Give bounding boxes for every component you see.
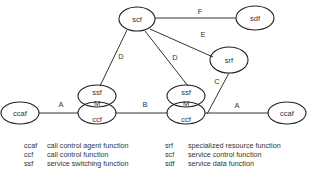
legend-abbr: scf [165, 150, 188, 159]
legend-abbr: ccf [24, 150, 47, 159]
legend-abbr: ssf [24, 159, 47, 168]
legend-desc: service data function [188, 159, 254, 168]
svg-text:sdf: sdf [250, 14, 261, 23]
node-srf: srf [210, 47, 248, 73]
legend-row: ccaf call control agent function [24, 141, 129, 150]
svg-text:ssf: ssf [181, 88, 192, 97]
edge-label-b: B [142, 100, 147, 109]
legend-right: srf specialized resource function scf se… [165, 141, 281, 168]
legend-desc: specialized resource function [188, 141, 281, 150]
legend-desc: service control function [188, 150, 262, 159]
svg-text:srf: srf [225, 56, 234, 65]
legend-desc: service switching function [47, 159, 129, 168]
edge-label-d-left: D [118, 52, 124, 61]
svg-text:ccf: ccf [181, 115, 192, 124]
legend-abbr: ccaf [24, 141, 47, 150]
legend-left: ccaf call control agent function ccf cal… [24, 141, 129, 168]
svg-text:ccaf: ccaf [280, 109, 295, 118]
legend-abbr: sdf [165, 159, 188, 168]
legend-row: ssf service switching function [24, 159, 129, 168]
legend-abbr: srf [165, 141, 188, 150]
legend-row: ccf call control function [24, 150, 129, 159]
legend-desc: call control function [47, 150, 109, 159]
node-ccaf-left: ccaf [1, 102, 39, 124]
legend-row: sdf service data function [165, 159, 281, 168]
overlap-label-m-right: M [183, 99, 189, 108]
edge-label-a-right: A [234, 101, 239, 110]
edge-label-d-right: D [172, 53, 178, 62]
edge-label-e: E [200, 30, 205, 39]
svg-text:scf: scf [132, 15, 143, 24]
svg-text:ssf: ssf [92, 88, 103, 97]
legend-desc: call control agent function [47, 141, 129, 150]
svg-text:ccaf: ccaf [13, 109, 28, 118]
node-scf: scf [119, 7, 155, 31]
edge-label-f: F [198, 7, 203, 16]
edge-scf-ssf-right [145, 31, 188, 86]
legend-row: srf specialized resource function [165, 141, 281, 150]
svg-text:ccf: ccf [92, 115, 103, 124]
node-ccaf-right: ccaf [268, 102, 306, 124]
legend-row: scf service control function [165, 150, 281, 159]
edge-label-c: C [214, 77, 220, 86]
edge-label-a-left: A [58, 100, 63, 109]
overlap-label-m-left: M [94, 99, 100, 108]
node-sdf: sdf [236, 6, 274, 30]
